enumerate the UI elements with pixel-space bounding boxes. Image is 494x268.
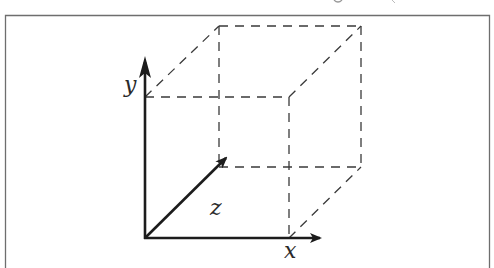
depth-edge-top-right [289, 26, 361, 97]
depth-edge-bottom-right [289, 167, 361, 238]
cube-axes-diagram: y z x [0, 0, 494, 268]
z-axis-label: z [209, 195, 222, 220]
coordinate-axes [144, 62, 320, 239]
depth-edge-top-left [145, 26, 219, 97]
figure-frame [6, 16, 490, 268]
x-axis-label: x [284, 238, 297, 263]
caption-remnant [334, 0, 395, 3]
y-axis-label: y [123, 72, 137, 97]
